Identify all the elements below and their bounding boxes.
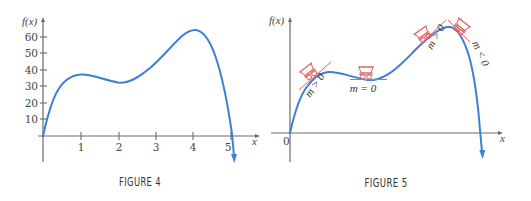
figure4-curve-arrow-icon [231, 154, 237, 163]
figures-canvas: 60 50 40 30 20 10 1 2 3 4 5 f(x) x FIGUR… [0, 0, 531, 201]
car-2-icon [358, 67, 374, 79]
car-4-icon [451, 18, 471, 37]
figure4-y-tick-label: 40 [25, 64, 38, 76]
figure4-y-tick-label: 60 [25, 31, 38, 43]
figure4-y-tick-label: 10 [25, 113, 38, 125]
slope-label-3: m > 0 [423, 22, 447, 51]
slope-label-2: m = 0 [350, 82, 377, 94]
figure4-x-tick-label: 4 [190, 141, 197, 153]
figure5-y-axis-label: f(x) [269, 14, 285, 27]
figure4-y-tick-label: 30 [25, 80, 38, 92]
figure4-caption: FIGURE 4 [119, 175, 161, 189]
figure-4: 60 50 40 30 20 10 1 2 3 4 5 f(x) x FIGUR… [22, 15, 260, 189]
figure4-y-axis-arrow-icon [41, 17, 45, 22]
figure4-x-tick-label: 3 [153, 141, 160, 153]
figure4-y-tick-label: 50 [25, 47, 38, 59]
figure4-x-axis-label: x [251, 135, 257, 147]
figure4-y-axis-label: f(x) [22, 15, 38, 28]
figure5-x-axis-label: x [499, 132, 505, 144]
slope-label-4: m < 0 [470, 39, 492, 68]
roller-coaster-car-4 [448, 18, 471, 42]
figure5-origin-label: 0 [283, 135, 290, 147]
figure5-y-axis-arrow-icon [288, 17, 292, 22]
figure4-x-tick-label: 1 [78, 141, 85, 153]
figure5-caption: FIGURE 5 [365, 176, 408, 190]
figure-5: f(x) x 0 m > 0 m = 0 m > 0 m < 0 [269, 14, 505, 190]
figure4-curve [43, 30, 234, 156]
figure5-curve-arrow-icon [479, 150, 485, 159]
figure4-x-tick-label: 5 [225, 141, 232, 153]
figure4-y-tick-label: 20 [25, 97, 38, 109]
figure4-x-tick-label: 2 [116, 141, 123, 153]
